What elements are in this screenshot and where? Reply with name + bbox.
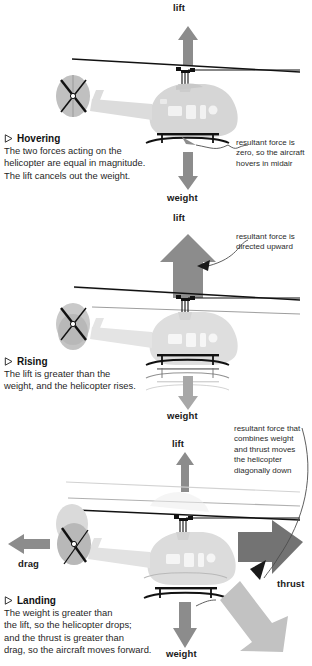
annotation-resultant-force-rising: resultant force is directed upward	[236, 232, 295, 253]
rotor-hub	[174, 515, 193, 532]
thrust-arrow-right-icon	[238, 520, 303, 574]
motion-ghost-body	[150, 492, 209, 512]
annotation-line: zero, so the aircraft	[236, 148, 304, 158]
annotation-line: hovers in midair	[236, 159, 304, 169]
caption-line: The lift is greater than the	[4, 368, 184, 380]
annotation-resultant-force-hovering: resultant force is zero, so the aircraft…	[236, 138, 304, 169]
annotation-line: the helicopter	[234, 455, 300, 465]
drag-arrow-left-icon	[8, 534, 50, 554]
caption-heading-text: Landing	[17, 595, 56, 606]
force-label-lift: lift	[173, 2, 185, 13]
annotation-line: diagonally down	[234, 466, 300, 476]
caption-line: drag, so the aircraft moves forward.	[4, 644, 204, 656]
triangle-right-outline-icon	[4, 357, 13, 366]
section-landing: lift weight drag thrust resultant force …	[0, 420, 312, 666]
caption-hovering: Hovering The two forces acting on the he…	[4, 133, 184, 182]
force-label-weight: weight	[167, 192, 198, 203]
triangle-right-outline-icon	[4, 134, 13, 143]
caption-heading-text: Hovering	[17, 133, 60, 144]
section-rising: lift weight resultant force is directed …	[0, 210, 312, 420]
annotation-line: resultant force is	[236, 232, 295, 242]
caption-line: The two forces acting on the	[4, 145, 184, 157]
helicopter-forces-diagram: lift weight resultant force is zero, so …	[0, 0, 312, 666]
caption-body-landing: The weight is greater than the lift, so …	[4, 607, 204, 656]
caption-heading-hovering: Hovering	[4, 133, 184, 144]
tail-rotor	[56, 75, 90, 117]
tail-rotor	[56, 504, 91, 565]
force-label-thrust: thrust	[277, 578, 305, 589]
caption-line: The weight is greater than	[4, 607, 204, 619]
annotation-line: resultant force is	[236, 138, 304, 148]
annotation-line: directed upward	[236, 242, 295, 252]
force-label-lift: lift	[172, 438, 184, 449]
caption-rising: Rising The lift is greater than the weig…	[4, 356, 184, 393]
caption-heading-text: Rising	[17, 356, 48, 367]
rotor-hub	[176, 67, 195, 84]
caption-line: the lift, so the helicopter drops;	[4, 619, 204, 631]
tail-rotor	[56, 303, 90, 350]
annotation-resultant-force-landing: resultant force that combines weight and…	[234, 424, 300, 476]
resultant-arrow-diagonal-icon	[220, 581, 288, 652]
section-hovering: lift weight resultant force is zero, so …	[0, 0, 312, 210]
caption-line: The lift cancels out the weight.	[4, 170, 184, 182]
caption-landing: Landing The weight is greater than the l…	[4, 595, 204, 656]
caption-body-rising: The lift is greater than the weight, and…	[4, 368, 184, 393]
caption-heading-landing: Landing	[4, 595, 204, 606]
caption-line: helicopter are equal in magnitude.	[4, 157, 184, 169]
annotation-line: and thrust moves	[234, 445, 300, 455]
lift-arrow-up-icon	[178, 26, 198, 66]
caption-body-hovering: The two forces acting on the helicopter …	[4, 145, 184, 182]
caption-line: and the thrust is greater than	[4, 632, 204, 644]
force-label-lift: lift	[173, 212, 185, 223]
caption-line: weight, and the helicopter rises.	[4, 380, 184, 392]
triangle-right-outline-icon	[4, 596, 13, 605]
lift-arrow-up-icon	[176, 452, 194, 492]
annotation-line: combines weight	[234, 434, 300, 444]
annotation-line: resultant force that	[234, 424, 300, 434]
force-label-drag: drag	[18, 558, 39, 569]
caption-heading-rising: Rising	[4, 356, 184, 367]
